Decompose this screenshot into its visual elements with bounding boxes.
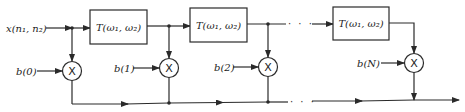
- multiply-icon: X: [264, 61, 272, 74]
- top-ellipsis: · · ·: [288, 18, 314, 29]
- diagram-svg: x(n₁, n₂) T(ω₁, ω₂) T(ω₁, ω₂) · · · T(ω₁…: [0, 0, 465, 112]
- block-2-label: T(ω₁, ω₂): [196, 20, 241, 31]
- coefficient-bn-label: b(N): [357, 58, 380, 69]
- multiply-icon: X: [68, 65, 76, 78]
- filter-block-diagram: x(n₁, n₂) T(ω₁, ω₂) T(ω₁, ω₂) · · · T(ω₁…: [0, 0, 465, 112]
- coefficient-b2-label: b(2): [214, 62, 235, 73]
- input-label: x(n₁, n₂): [6, 23, 47, 34]
- multiply-icon: X: [410, 57, 418, 70]
- sum-bus-seg-2: [169, 103, 223, 104]
- coefficient-b0-label: b(0): [16, 66, 37, 77]
- block-1-label: T(ω₁, ω₂): [96, 22, 141, 33]
- sum-bus-seg-4b: [360, 100, 414, 101]
- block-n-label: T(ω₁, ω₂): [338, 18, 383, 29]
- multiply-icon: X: [165, 62, 173, 75]
- blockN-output: [389, 23, 414, 53]
- coefficient-b1-label: b(1): [114, 63, 135, 74]
- sum-bus-seg-1b: [126, 103, 169, 104]
- sum-bus-seg-2b: [221, 102, 268, 103]
